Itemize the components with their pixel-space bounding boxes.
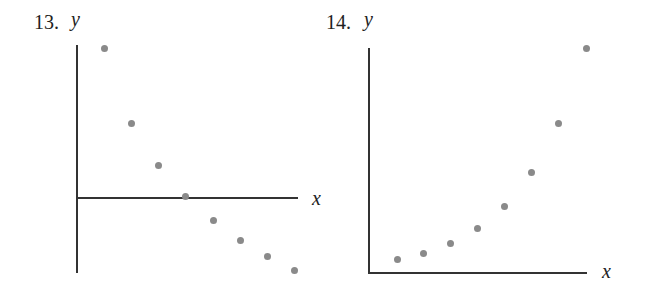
data-point [474,225,481,232]
plot-13-number: 13. [34,12,59,32]
data-point [501,203,508,210]
plot-14-number: 14. [326,12,351,32]
plot-14-x-label: x [602,261,611,281]
plot-13-y-axis [76,45,78,273]
data-point [210,217,217,224]
plot-14-y-axis [368,48,370,274]
data-point [447,240,454,247]
plot-13-x-label: x [312,188,321,208]
data-point [182,193,189,200]
plot-14-x-axis [369,272,587,274]
data-point [394,256,401,263]
data-point [528,169,535,176]
data-point [237,237,244,244]
data-point [155,162,162,169]
data-point [128,120,135,127]
data-point [291,267,298,274]
data-point [420,250,427,257]
plot-14-y-label: y [364,9,373,29]
data-point [583,45,590,52]
data-point [555,120,562,127]
data-point [101,45,108,52]
plot-13-y-label: y [71,9,80,29]
data-point [264,253,271,260]
